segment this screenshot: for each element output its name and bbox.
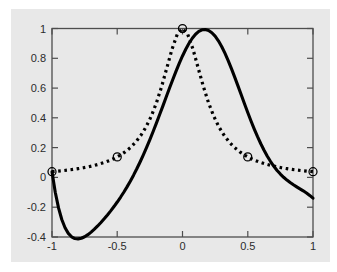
chart-svg: -1 -0.5 0 0.5 1 -0.4 -0.2 0 0.2 0.4 0.6 … xyxy=(0,0,337,272)
y-ticklabel: 0.4 xyxy=(31,112,46,124)
chart-plot: -1 -0.5 0 0.5 1 -0.4 -0.2 0 0.2 0.4 0.6 … xyxy=(0,0,337,272)
x-ticklabel: -0.5 xyxy=(108,240,127,252)
x-ticklabel: 1 xyxy=(310,240,316,252)
series-runge-function xyxy=(52,29,313,172)
y-ticklabel: -0.2 xyxy=(27,201,46,213)
y-ticklabel: 0 xyxy=(40,171,46,183)
y-ticklabel: 0.2 xyxy=(31,142,46,154)
x-ticklabel: 0.5 xyxy=(240,240,255,252)
x-axis-ticklabels: -1 -0.5 0 0.5 1 xyxy=(47,240,316,252)
x-ticklabel: 0 xyxy=(179,240,185,252)
y-ticklabel: 0.8 xyxy=(31,52,46,64)
y-axis-ticklabels: -0.4 -0.2 0 0.2 0.4 0.6 0.8 1 xyxy=(27,23,46,244)
data-point-markers xyxy=(48,25,317,176)
series-interpolant xyxy=(52,30,313,239)
y-ticklabel: 1 xyxy=(40,23,46,35)
y-ticklabel: -0.4 xyxy=(27,231,46,243)
x-ticklabel: -1 xyxy=(47,240,57,252)
y-ticklabel: 0.6 xyxy=(31,82,46,94)
